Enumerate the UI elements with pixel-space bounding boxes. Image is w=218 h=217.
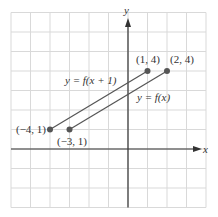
x-axis-label: x [202,143,208,155]
x-axis-arrow-icon [193,146,202,152]
label-original-function: y = f(x) [136,91,170,104]
label-shifted-function: y = f(x + 1) [64,74,117,87]
label-point-1-4: (1, 4) [136,53,160,66]
grid [11,13,206,208]
y-axis: y [123,4,131,208]
graph: x y (−4, 1) (−3, 1) (1, 4) (2, 4) y = f(… [0,0,218,217]
label-point-neg4-1: (−4, 1) [16,123,46,136]
y-axis-arrow-icon [125,18,131,27]
point-neg3-1 [67,127,73,133]
label-point-2-4: (2, 4) [170,53,194,66]
point-neg4-1 [47,127,53,133]
y-axis-label: y [123,4,129,16]
point-1-4 [145,68,151,74]
x-axis: x [11,143,208,155]
label-point-neg3-1: (−3, 1) [57,135,87,148]
point-2-4 [164,68,170,74]
